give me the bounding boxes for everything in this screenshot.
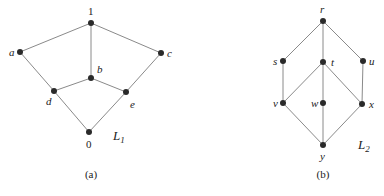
node-y-icon bbox=[320, 142, 326, 148]
node-a-icon bbox=[17, 49, 23, 55]
edge-x-y bbox=[323, 104, 362, 145]
edge-t-x bbox=[323, 62, 362, 104]
edge-u-x bbox=[362, 61, 363, 104]
edge-e-0 bbox=[89, 92, 126, 132]
edge-c-e bbox=[126, 53, 161, 92]
node-label-w: w bbox=[311, 97, 319, 109]
node-v-icon bbox=[280, 100, 286, 106]
node-label-r: r bbox=[320, 3, 325, 15]
node-label-y: y bbox=[319, 150, 325, 162]
node-b-icon bbox=[88, 75, 94, 81]
lattice-L2-name: L2 bbox=[357, 137, 370, 154]
edge-1-c bbox=[91, 23, 161, 53]
node-t-icon bbox=[320, 59, 326, 65]
edge-r-s bbox=[283, 21, 323, 61]
edge-1-a bbox=[20, 23, 91, 52]
node-r-icon bbox=[320, 18, 326, 24]
node-s-icon bbox=[280, 58, 286, 64]
node-e-icon bbox=[123, 89, 129, 95]
edge-a-d bbox=[20, 52, 54, 91]
node-u-icon bbox=[360, 58, 366, 64]
edge-r-u bbox=[323, 21, 363, 61]
node-label-1: 1 bbox=[88, 5, 94, 17]
edge-v-y bbox=[283, 103, 323, 145]
node-x-icon bbox=[359, 101, 365, 107]
node-label-c: c bbox=[167, 47, 172, 59]
node-label-u: u bbox=[369, 55, 375, 67]
edge-b-e bbox=[91, 78, 126, 92]
node-1-icon bbox=[88, 20, 94, 26]
node-label-b: b bbox=[97, 63, 103, 75]
edge-d-0 bbox=[54, 91, 89, 132]
node-0-icon bbox=[86, 129, 92, 135]
node-w-icon bbox=[320, 100, 326, 106]
lattice-diagram-canvas: 1acbde0 L1 (a) rstuvwxy L2 (b) bbox=[0, 0, 384, 196]
lattice-L1: 1acbde0 L1 (a) bbox=[9, 5, 172, 181]
lattice-L2: rstuvwxy L2 (b) bbox=[273, 3, 375, 181]
node-label-s: s bbox=[273, 55, 277, 67]
edge-b-d bbox=[54, 78, 91, 91]
figure-b-caption: (b) bbox=[317, 168, 330, 181]
node-label-x: x bbox=[368, 98, 374, 110]
figure-a-caption: (a) bbox=[85, 168, 98, 181]
node-label-v: v bbox=[273, 97, 278, 109]
node-label-0: 0 bbox=[86, 138, 92, 150]
node-d-icon bbox=[51, 88, 57, 94]
node-label-d: d bbox=[46, 95, 52, 107]
node-c-icon bbox=[158, 50, 164, 56]
node-label-a: a bbox=[9, 46, 15, 58]
lattice-L1-name: L1 bbox=[112, 128, 125, 145]
node-label-e: e bbox=[130, 98, 135, 110]
lattice-L2-edges bbox=[283, 21, 363, 145]
node-label-t: t bbox=[331, 56, 335, 68]
